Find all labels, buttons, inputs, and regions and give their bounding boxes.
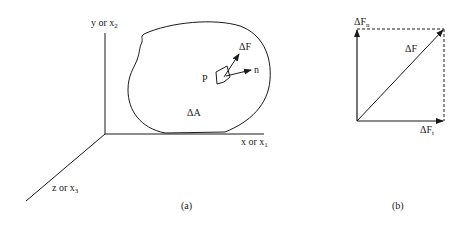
normal-label: n (254, 65, 259, 75)
force-label: ΔF (239, 42, 251, 52)
normal-vector-arrow (226, 70, 251, 76)
force-decomposition (357, 29, 444, 121)
caption-a: (a) (181, 201, 192, 211)
point-p-label: P (202, 74, 208, 84)
normal-component-label: ΔFn (354, 17, 370, 29)
resultant-force-label: ΔF (405, 44, 417, 54)
area-element (216, 66, 230, 84)
area-label: ΔA (187, 108, 201, 118)
x-axis-label: x or x1 (241, 137, 268, 149)
y-axis-label: y or x2 (91, 18, 118, 30)
z-axis-label: z or x3 (52, 183, 78, 195)
resultant-force-arrow (357, 30, 443, 121)
coordinate-axes (26, 33, 264, 201)
caption-b: (b) (392, 201, 404, 211)
tangential-component-label: ΔFt (420, 125, 434, 137)
